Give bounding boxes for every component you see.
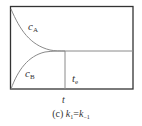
label-cB: cB (25, 68, 35, 81)
label-cA: cA (28, 21, 38, 34)
curve-cB (11, 51, 65, 89)
x-axis-label: t (62, 95, 65, 105)
figure-caption: (c) k1=k−1 (0, 108, 142, 120)
label-te: te (72, 73, 78, 86)
